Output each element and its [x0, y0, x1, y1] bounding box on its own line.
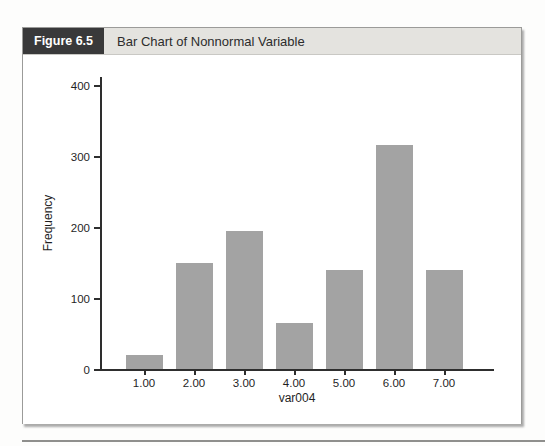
bar — [426, 270, 463, 369]
x-tick-label: 4.00 — [272, 377, 316, 389]
y-tick — [94, 227, 100, 229]
x-tick-label: 1.00 — [122, 377, 166, 389]
y-tick — [94, 369, 100, 371]
x-tick-label: 7.00 — [422, 377, 466, 389]
x-tick-label: 3.00 — [222, 377, 266, 389]
page: Figure 6.5 Bar Chart of Nonnormal Variab… — [0, 0, 545, 446]
x-tick — [244, 371, 246, 375]
figure-header: Figure 6.5 Bar Chart of Nonnormal Variab… — [23, 28, 521, 55]
y-tick-label: 0 — [56, 364, 90, 376]
x-tick-label: 6.00 — [372, 377, 416, 389]
x-tick-label: 2.00 — [172, 377, 216, 389]
y-tick — [94, 298, 100, 300]
x-axis-line — [100, 369, 494, 371]
x-tick — [394, 371, 396, 375]
figure-box: Figure 6.5 Bar Chart of Nonnormal Variab… — [22, 27, 522, 424]
y-tick-label: 200 — [56, 222, 90, 234]
bottom-horizontal-rule — [22, 440, 545, 442]
x-axis-title: var004 — [247, 391, 347, 405]
y-axis-line — [100, 77, 102, 371]
x-tick — [194, 371, 196, 375]
x-tick — [444, 371, 446, 375]
bar — [276, 323, 313, 369]
y-tick-label: 300 — [56, 151, 90, 163]
y-tick — [94, 156, 100, 158]
bar — [376, 145, 413, 369]
y-tick-label: 100 — [56, 293, 90, 305]
bar — [226, 231, 263, 369]
bar — [126, 355, 163, 369]
x-tick — [294, 371, 296, 375]
y-axis-title: Frequency — [41, 163, 55, 283]
bar — [176, 263, 213, 370]
figure-number-label: Figure 6.5 — [23, 28, 104, 54]
y-tick — [94, 85, 100, 87]
x-tick-label: 5.00 — [322, 377, 366, 389]
figure-title: Bar Chart of Nonnormal Variable — [104, 28, 318, 54]
y-tick-label: 400 — [56, 80, 90, 92]
bar-chart: Frequency var004 01002003004001.002.003.… — [23, 55, 521, 424]
x-tick — [344, 371, 346, 375]
bar — [326, 270, 363, 369]
x-tick — [144, 371, 146, 375]
